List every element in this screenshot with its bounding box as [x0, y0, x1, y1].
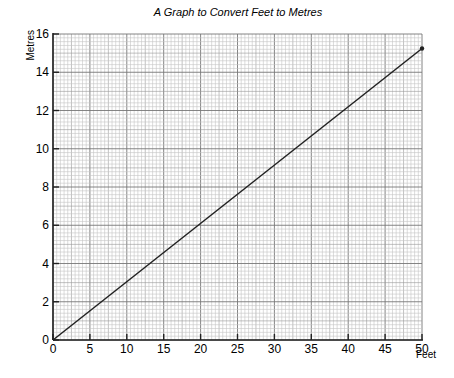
x-tick-label: 5	[87, 342, 94, 356]
x-tick-label: 25	[231, 342, 245, 356]
y-tick-label: 14	[36, 65, 50, 79]
x-tick-label: 15	[157, 342, 171, 356]
y-tick-label: 12	[36, 104, 50, 118]
y-tick-label: 2	[42, 295, 49, 309]
y-tick-label: 10	[36, 142, 50, 156]
x-tick-label: 30	[268, 342, 282, 356]
y-axis-label: Metres	[25, 30, 36, 61]
y-tick-label: 8	[42, 180, 49, 194]
y-tick-label: 6	[42, 218, 49, 232]
y-tick-label: 16	[36, 27, 50, 41]
x-tick-label: 40	[342, 342, 356, 356]
grid	[53, 34, 422, 340]
x-tick-label: 0	[50, 342, 57, 356]
x-tick-label: 20	[194, 342, 208, 356]
x-tick-label: 45	[378, 342, 392, 356]
feet-to-metres-chart: 051015202530354045500246810121416 A Grap…	[0, 0, 454, 378]
chart-title: A Graph to Convert Feet to Metres	[153, 6, 323, 18]
x-tick-label: 35	[305, 342, 319, 356]
x-tick-label: 10	[120, 342, 134, 356]
series-line	[53, 46, 424, 340]
y-tick-label: 4	[42, 257, 49, 271]
y-tick-label: 0	[42, 333, 49, 347]
x-axis-label: Feet	[416, 349, 436, 360]
